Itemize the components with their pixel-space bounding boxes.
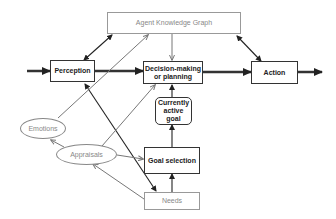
perception-label: Perception <box>54 67 90 75</box>
goal-selection-box: Goal selection <box>144 147 200 174</box>
decision-making-label: Decision-making or planning <box>144 65 202 81</box>
edge-appraisals-emotions <box>51 140 64 147</box>
appraisals-label: Appraisals <box>70 151 103 159</box>
agent-knowledge-graph-label: Agent Knowledge Graph <box>136 19 212 27</box>
edge-appraisals-goalselection <box>117 155 143 159</box>
perception-box: Perception <box>50 60 95 82</box>
goal-selection-label: Goal selection <box>148 157 196 165</box>
edge-action-kg <box>237 36 261 61</box>
edge-perception-needs <box>85 84 156 191</box>
appraisals-ellipse: Appraisals <box>56 144 117 165</box>
currently-active-goal-box: Currently active goal <box>155 97 192 125</box>
edge-perception-kg <box>84 35 112 60</box>
emotions-ellipse: Emotions <box>20 118 66 139</box>
agent-knowledge-graph-box: Agent Knowledge Graph <box>107 12 241 34</box>
currently-active-goal-label: Currently active goal <box>158 99 189 123</box>
edge-needs-appraisals <box>93 164 144 199</box>
edge-appraisals-decision <box>102 85 155 146</box>
needs-label: Needs <box>162 197 182 205</box>
action-box: Action <box>251 61 298 84</box>
emotions-label: Emotions <box>28 125 57 133</box>
needs-box: Needs <box>144 192 200 210</box>
action-label: Action <box>264 69 286 77</box>
decision-making-box: Decision-making or planning <box>143 61 203 84</box>
